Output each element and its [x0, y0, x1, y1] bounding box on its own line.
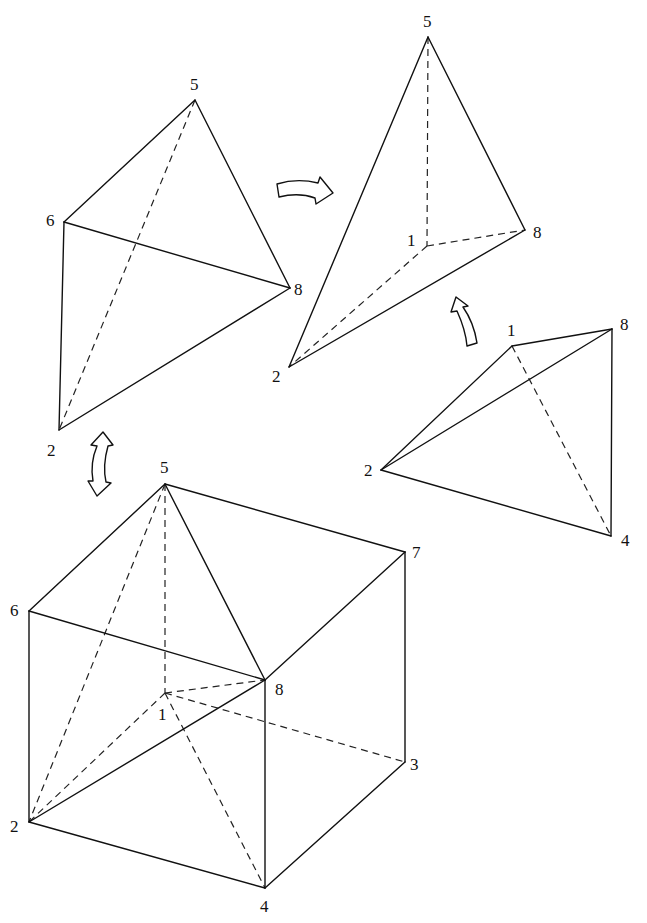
- vertex-label-8: 8: [620, 315, 629, 334]
- vertex-label-3: 3: [410, 755, 419, 774]
- edge-5-8: [195, 100, 290, 288]
- hidden-edge-1-2: [29, 693, 165, 822]
- edge-2-4: [381, 470, 611, 536]
- vertex-label-8: 8: [294, 280, 303, 299]
- vertex-label-6: 6: [46, 211, 55, 230]
- edge-5-6: [64, 100, 195, 222]
- vertex-label-4: 4: [621, 531, 630, 550]
- curved-right-arrow-icon: [277, 177, 333, 204]
- vertex-label-8: 8: [275, 680, 284, 699]
- edge-5-8: [165, 484, 265, 680]
- vertex-label-5: 5: [423, 12, 432, 31]
- vertex-label-1: 1: [407, 231, 416, 250]
- hidden-edge-1-3: [165, 693, 405, 762]
- vertex-label-4: 4: [260, 897, 269, 916]
- double-curved-arrow-icon: [88, 432, 113, 496]
- vertex-label-6: 6: [10, 601, 19, 620]
- edge-4-3: [265, 762, 405, 888]
- edge-6-2: [59, 222, 64, 430]
- hidden-edge-1-8: [165, 680, 265, 693]
- edge-5-6: [29, 484, 165, 611]
- hidden-edge-5-1: [427, 37, 428, 246]
- edge-2-8: [381, 329, 612, 470]
- vertex-label-5: 5: [160, 458, 169, 477]
- tetra-upper-right: 5182: [272, 12, 542, 386]
- hidden-edge-1-2: [289, 246, 427, 367]
- tetra-upper-left: 5682: [46, 75, 303, 460]
- vertex-label-1: 1: [158, 705, 167, 724]
- edge-6-8: [29, 611, 265, 680]
- edge-2-4: [29, 822, 265, 888]
- vertex-label-1: 1: [507, 321, 516, 340]
- vertex-label-2: 2: [364, 461, 373, 480]
- vertex-label-2: 2: [10, 817, 19, 836]
- edge-5-7: [165, 484, 405, 552]
- edge-7-8: [265, 552, 405, 680]
- vertex-label-8: 8: [533, 223, 542, 242]
- hidden-edge-1-4: [512, 346, 611, 536]
- vertex-label-2: 2: [47, 441, 56, 460]
- tetra-right: 1824: [364, 315, 630, 550]
- hidden-edge-5-2: [29, 484, 165, 822]
- vertex-label-2: 2: [272, 367, 281, 386]
- diagram-canvas: 56825182182456781324: [0, 0, 647, 923]
- edge-5-2: [289, 37, 428, 367]
- hidden-edge-5-2: [59, 100, 195, 430]
- edge-1-2: [381, 346, 512, 470]
- hidden-edge-1-4: [165, 693, 265, 888]
- vertex-label-5: 5: [190, 75, 199, 94]
- edge-2-8: [289, 230, 525, 367]
- vertex-label-7: 7: [412, 543, 421, 562]
- edge-5-8: [428, 37, 525, 230]
- edge-2-8: [59, 288, 290, 430]
- edge-2-8: [29, 680, 265, 822]
- edge-8-4: [611, 329, 612, 536]
- cube: 56781324: [10, 458, 421, 916]
- curved-up-arrow-icon: [451, 297, 477, 346]
- edge-6-8: [64, 222, 290, 288]
